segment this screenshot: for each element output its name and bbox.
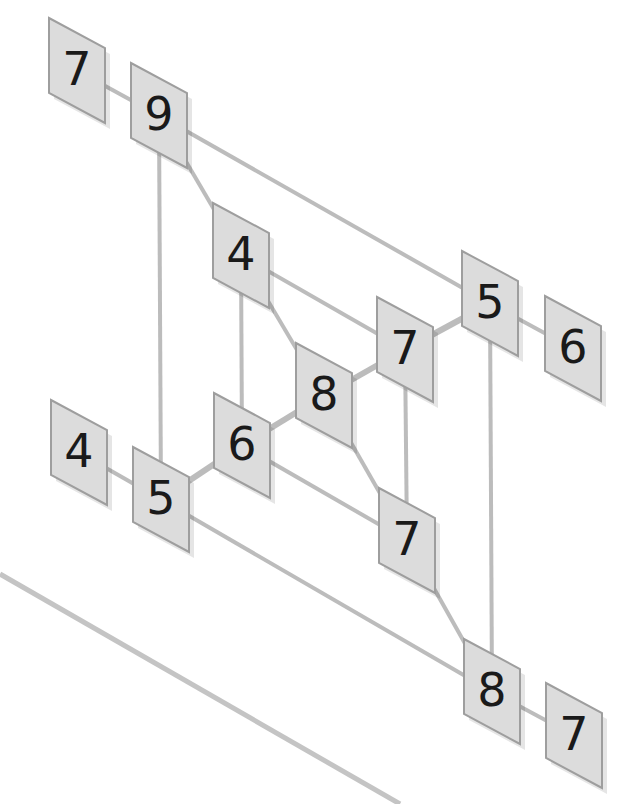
node-label: 7 xyxy=(559,707,588,761)
graph-node: 7 xyxy=(377,297,438,408)
node-label: 8 xyxy=(477,663,506,717)
node-label: 4 xyxy=(226,227,255,281)
graph-node: 5 xyxy=(133,447,194,558)
graph-edge xyxy=(161,500,492,692)
node-label: 9 xyxy=(144,87,173,141)
node-label: 7 xyxy=(392,512,421,566)
graph-node: 6 xyxy=(214,393,275,504)
graph-node: 6 xyxy=(545,296,606,407)
graph-node: 8 xyxy=(464,639,525,750)
graph-node: 8 xyxy=(296,343,357,454)
node-label: 7 xyxy=(390,321,419,375)
graph-node: 7 xyxy=(49,18,110,129)
node-label: 4 xyxy=(64,424,93,478)
decorative-line xyxy=(0,574,400,804)
graph-edge xyxy=(159,116,161,500)
node-layer: 7947568645787 xyxy=(49,18,607,794)
node-label: 7 xyxy=(62,42,91,96)
graph-node: 9 xyxy=(131,63,192,174)
graph-node: 5 xyxy=(462,251,523,362)
graph-edge xyxy=(159,116,490,304)
node-label: 8 xyxy=(309,367,338,421)
diagram-canvas: 7947568645787 xyxy=(0,0,624,804)
graph-node: 4 xyxy=(51,400,112,511)
node-label: 6 xyxy=(558,320,587,374)
graph-node: 4 xyxy=(213,203,274,314)
graph-node: 7 xyxy=(546,683,607,794)
node-label: 5 xyxy=(146,471,175,525)
decoration-layer xyxy=(0,574,400,804)
graph-edge xyxy=(490,304,492,692)
node-label: 5 xyxy=(475,275,504,329)
node-label: 6 xyxy=(227,417,256,471)
graph-node: 7 xyxy=(379,488,440,599)
